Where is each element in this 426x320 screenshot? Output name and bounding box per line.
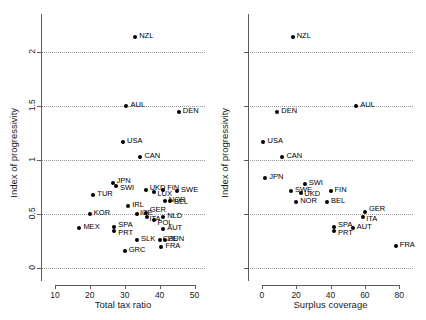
gridline-y [248,52,413,53]
data-point-label: GER [150,206,166,214]
y-tick [244,160,248,161]
y-axis-line [248,14,249,281]
data-point [77,226,81,230]
data-point [275,110,279,114]
x-tick-label: 80 [384,291,414,300]
data-point-label: SLK [141,235,155,243]
data-point [91,193,95,197]
y-tick [244,52,248,53]
data-point [88,212,92,216]
x-tick-label: 0 [247,291,277,300]
data-point [135,212,139,216]
data-point [394,244,398,248]
data-point-label: PRT [118,229,133,237]
x-tick [195,285,196,289]
y-tick [37,160,41,161]
data-point-label: FRA [165,242,180,250]
gridline-y [41,106,205,107]
x-tick [296,285,297,289]
data-point-label: KOR [94,209,110,217]
x-tick-label: 50 [180,291,210,300]
data-point [291,35,295,39]
x-tick [90,285,91,289]
y-tick [37,268,41,269]
data-point-label: AUT [357,223,372,231]
data-point-label: NOR [300,197,317,205]
y-tick-label: 1 [28,148,37,170]
data-point-label: NZL [297,32,311,40]
y-axis-line [41,14,42,281]
y-tick [37,106,41,107]
y-tick [244,214,248,215]
y-axis-title-right: Index of progressivity [220,92,230,212]
data-point [289,189,293,193]
gridline-y [41,268,205,269]
data-point [135,238,139,242]
data-point-label: BEL [174,198,188,206]
y-axis-title-left: Index of progressivity [9,92,19,212]
data-point [177,110,181,114]
data-point [144,188,148,192]
data-point [299,191,303,195]
data-point-label: AUL [130,101,145,109]
x-tick [365,285,366,289]
data-point [361,215,365,219]
gridline-y [41,52,205,53]
data-point-label: MEX [83,223,99,231]
gridline-y [248,214,413,215]
plot-area-right: 020406080NZLAULDENUSACANJPNSWISWEUKDFINN… [213,0,426,320]
data-point [354,104,358,108]
x-tick [399,285,400,289]
panel-total-tax-ratio: 00.511.521020304050NZLAULDENUSACANJPNSWI… [0,0,213,320]
gridline-y [248,106,413,107]
data-point [261,140,265,144]
data-point [351,226,355,230]
data-point [123,249,127,253]
gridline-y [248,160,413,161]
data-point [329,189,333,193]
data-point [263,176,267,180]
data-point [175,189,179,193]
data-point-label: SWI [120,184,134,192]
gridline-y [248,268,413,269]
data-point-label: FRA [400,241,415,249]
data-point-label: CAN [144,152,160,160]
data-point [112,229,116,233]
data-point [124,104,128,108]
plot-area-left: 00.511.521020304050NZLAULDENUSACANJPNSWI… [0,0,213,320]
data-point-label: BEL [331,197,345,205]
y-tick-label: 2 [28,40,37,62]
x-tick [262,285,263,289]
data-point [280,155,284,159]
data-point-label: PRT [338,229,353,237]
data-point-label: AUL [360,101,375,109]
data-point [121,140,125,144]
data-point-label: CAN [286,152,302,160]
data-point-label: DEN [281,107,297,115]
y-tick-label: 0.5 [28,202,37,224]
data-point-label: TUR [97,190,112,198]
data-point-label: GER [369,205,385,213]
data-point-label: AUT [167,224,182,232]
data-point [138,155,142,159]
x-axis-title-left: Total tax ratio [41,300,205,310]
y-tick-label: 0 [28,256,37,278]
x-tick [160,285,161,289]
data-point [332,229,336,233]
data-point [325,200,329,204]
gridline-y [41,160,205,161]
y-tick-label: 1.5 [28,94,37,116]
y-tick [244,106,248,107]
data-point [159,245,163,249]
x-tick [55,285,56,289]
data-point-label: JPN [269,173,283,181]
panel-surplus-coverage: 020406080NZLAULDENUSACANJPNSWISWEUKDFINN… [213,0,426,320]
y-tick [244,268,248,269]
y-tick [37,52,41,53]
data-point-label: FIN [335,186,347,194]
data-point-label: USA [267,137,282,145]
data-point [114,184,118,188]
data-point [152,190,156,194]
x-tick [125,285,126,289]
x-tick [331,285,332,289]
